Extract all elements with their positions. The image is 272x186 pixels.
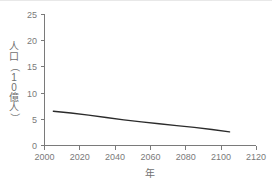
- y-axis-title-char-6: 人: [9, 103, 19, 113]
- chart-canvas: 0 5 10 15 20 25 2000 2020 2040 2060 2080…: [0, 0, 272, 186]
- x-tick-label-2080: 2080: [176, 152, 196, 162]
- y-tick-label-5: 5: [32, 115, 37, 125]
- x-tick-label-2120: 2120: [246, 152, 266, 162]
- x-tick-label-2060: 2060: [140, 152, 160, 162]
- y-axis-title: 人 口 （ 1 0 億 人 ）: [6, 42, 22, 124]
- y-axis-title-char-2: （: [9, 62, 19, 72]
- x-tick-label-2040: 2040: [105, 152, 125, 162]
- x-tick-label-2000: 2000: [34, 152, 54, 162]
- x-axis-title: 年: [145, 167, 155, 179]
- population-series-line: [53, 111, 229, 132]
- y-tick-label-25: 25: [27, 10, 37, 20]
- population-line-chart: 0 5 10 15 20 25 2000 2020 2040 2060 2080…: [0, 0, 272, 186]
- y-axis-title-char-1: 口: [9, 52, 19, 62]
- y-tick-label-0: 0: [32, 141, 37, 151]
- y-tick-label-10: 10: [27, 89, 37, 99]
- y-axis-title-char-7: ）: [9, 113, 19, 123]
- y-tick-label-20: 20: [27, 36, 37, 46]
- x-tick-label-2020: 2020: [70, 152, 90, 162]
- y-tick-marks: [41, 15, 45, 146]
- x-tick-marks: [45, 146, 257, 150]
- x-tick-label-2100: 2100: [211, 152, 231, 162]
- y-tick-label-15: 15: [27, 62, 37, 72]
